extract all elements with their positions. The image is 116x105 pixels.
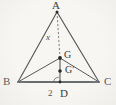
vertex-label-b: B <box>3 76 10 87</box>
vertex-label-a: A <box>52 0 60 11</box>
vertex-point-d <box>59 81 62 84</box>
point-label-g: G <box>64 50 71 60</box>
measure-label-x: x <box>46 33 50 42</box>
measure-label-two: 2 <box>48 89 53 98</box>
vertex-label-d: D <box>60 88 68 99</box>
point-marker-g-prime <box>58 69 62 73</box>
segment-ag-dashed <box>57 12 60 58</box>
point-label-g-prime: G′ <box>65 65 74 75</box>
segment-ac <box>57 12 99 82</box>
geometry-canvas <box>0 0 116 105</box>
segment-ab <box>18 12 57 82</box>
geometry-diagram: A B C D G G′ x 2 <box>0 0 116 105</box>
point-marker-g <box>58 56 62 60</box>
vertex-label-c: C <box>104 76 111 87</box>
